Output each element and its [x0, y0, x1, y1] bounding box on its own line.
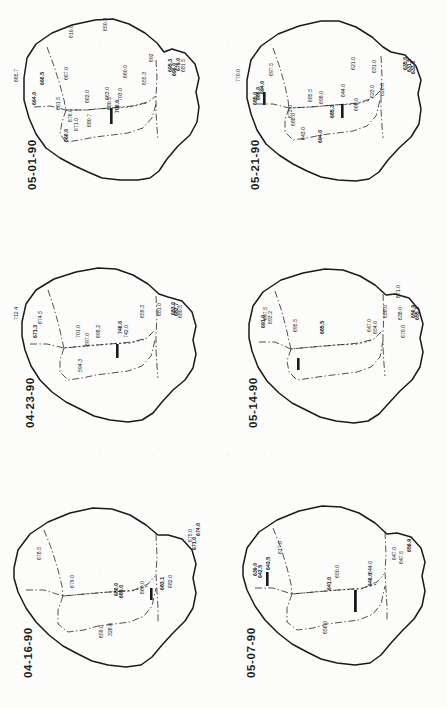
basin-outline-svg-3 — [0, 250, 224, 460]
value-label: 660.0 — [123, 65, 128, 78]
value-label: 650.0 — [383, 305, 388, 318]
contour-panel-5: 04-16-90 678.5 679.0 680.0 689.0 660.0 6… — [0, 478, 224, 708]
value-label: 631.0 — [372, 60, 377, 73]
value-label: 682.0 — [168, 575, 173, 588]
value-label: 660.0 — [64, 129, 69, 142]
value-label: 697.0 — [85, 333, 90, 346]
value-label: 680.5 — [178, 305, 183, 318]
value-label: 688.0 — [291, 113, 296, 126]
contour-panel-1: 05-01-90 665.7 664.0 660.5 667.0 610.0 6… — [0, 0, 224, 236]
filled-marker — [116, 344, 119, 358]
value-label: 650.3 — [103, 18, 108, 31]
value-label: 695.5 — [293, 319, 298, 332]
contour-panel-2: 05-21-90 770.0 697.5 694.0 686.0 685.0 6… — [223, 0, 447, 236]
panel-date-1: 05-01-90 — [26, 139, 38, 190]
value-label: 660.0 — [140, 581, 145, 594]
value-label: 594.3 — [78, 359, 83, 372]
value-label: 623.0 — [370, 85, 375, 98]
value-label: 697.5 — [269, 63, 274, 76]
value-label: 698.2 — [96, 325, 101, 338]
value-label: 643.0 — [301, 127, 306, 140]
contour-panel-3: 04-23-90 712.4 674.5 671.3 701.0 697.0 6… — [0, 250, 224, 486]
filled-marker — [297, 358, 300, 370]
contour-plot-3 — [0, 250, 224, 486]
value-label: 689.0 — [119, 585, 124, 598]
value-label: 661.5 — [56, 97, 61, 110]
value-label: 654.0 — [373, 321, 378, 334]
filled-marker — [354, 590, 357, 612]
value-label: 660.5 — [40, 72, 45, 85]
value-label: 674.5 — [38, 311, 43, 324]
value-label: 666.0 — [354, 98, 359, 111]
value-label: 674.0 — [196, 523, 201, 536]
value-label: 671.3 — [33, 325, 38, 338]
value-label: 681.0 — [157, 303, 162, 316]
value-label: 621.0 — [351, 57, 356, 70]
panel-date-5: 04-16-90 — [22, 627, 34, 678]
scanned-page: 05-01-90 665.7 664.0 660.5 667.0 610.0 6… — [0, 0, 447, 708]
filled-marker — [341, 104, 344, 118]
filled-marker — [110, 108, 113, 124]
value-label: 681.5 — [181, 59, 186, 72]
panel-date-2: 05-21-90 — [249, 139, 261, 190]
panel-date-4: 05-14-90 — [247, 377, 259, 428]
basin-outline-svg-1 — [0, 0, 224, 236]
value-label: 685.5 — [308, 89, 313, 102]
value-label: 698.0 — [319, 91, 324, 104]
value-label: 678.5 — [37, 547, 42, 560]
value-label: 633.0 — [411, 61, 416, 74]
value-label: 642.5 — [258, 565, 263, 578]
value-label: 670.0 — [401, 325, 406, 338]
value-label: 662.0 — [85, 90, 90, 103]
value-label: 617.0 — [278, 541, 283, 554]
value-label: 685.0 — [253, 92, 258, 105]
contour-panel-4: 05-14-90 697.5 693.2 691.0 695.5 685.5 6… — [223, 250, 447, 486]
value-label: 655.3 — [142, 72, 147, 85]
value-label: 685.5 — [320, 321, 325, 334]
basin-outline-svg-2 — [223, 0, 447, 236]
value-label: 683.0 — [171, 302, 176, 315]
value-label: 712.4 — [14, 307, 19, 320]
filled-marker — [266, 572, 269, 586]
filled-marker — [150, 588, 153, 600]
value-label: 647.0 — [392, 547, 397, 560]
value-label: 700.0 — [115, 100, 120, 113]
value-label: 638.0 — [398, 307, 403, 320]
basin-outline-svg-4 — [223, 250, 447, 460]
value-label: 656.9 — [407, 539, 412, 552]
value-label: 655.3 — [415, 307, 420, 320]
value-label: 644.0 — [368, 561, 373, 574]
value-label: 647.5 — [399, 551, 404, 564]
value-label: 691.0 — [261, 315, 266, 328]
value-label: 703.0 — [118, 88, 123, 101]
value-label: 610.0 — [69, 25, 74, 38]
value-label: 644.0 — [341, 84, 346, 97]
value-label: 659.3 — [140, 305, 145, 318]
value-label: 620.0 — [380, 83, 385, 96]
value-label: 679.0 — [70, 575, 75, 588]
value-label: 667.0 — [64, 67, 69, 80]
panel-date-3: 04-23-90 — [24, 377, 36, 428]
value-label: 664.0 — [32, 92, 37, 105]
contour-plot-4 — [223, 250, 447, 486]
value-label: 665.7 — [14, 69, 19, 82]
value-label: 650.0 — [335, 565, 340, 578]
value-label: 659.0 — [99, 625, 104, 638]
value-label: 646.0 — [368, 573, 373, 586]
panel-date-6: 05-07-90 — [245, 627, 257, 678]
value-label: 701.0 — [76, 325, 81, 338]
value-label: 641.0 — [327, 577, 332, 590]
value-label: 683.1 — [160, 577, 165, 590]
value-label: 685.3 — [330, 105, 335, 118]
contour-panel-6: 05-07-90 617.0 641.0 646.0 647.0 656.9 6… — [223, 478, 447, 708]
value-label: 680.5 — [107, 97, 112, 110]
value-label: 639.0 — [253, 563, 258, 576]
value-label: 656.0 — [323, 621, 328, 634]
value-label: 770.0 — [236, 69, 241, 82]
value-label: 693.2 — [268, 311, 273, 324]
value-label: 680.7 — [87, 114, 92, 127]
value-label: 742.0 — [124, 325, 129, 338]
value-label: 694.0 — [318, 130, 323, 143]
contour-plot-2 — [223, 0, 447, 236]
value-label: 671.0 — [396, 285, 401, 298]
